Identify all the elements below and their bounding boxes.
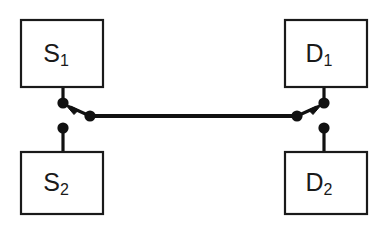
node-s1[interactable]: S1 [21, 20, 103, 87]
terminal-dot-d1 [318, 97, 329, 108]
node-s2-label-base: S [43, 168, 60, 196]
node-d1-label-base: D [306, 39, 324, 67]
node-s1-label-base: S [43, 39, 60, 67]
node-d1[interactable]: D1 [285, 20, 367, 87]
diagram-canvas: S1 D1 S2 D2 [0, 0, 391, 227]
switch-network-diagram: S1 D1 S2 D2 [0, 0, 391, 227]
node-d2[interactable]: D2 [285, 152, 367, 214]
terminal-dot-d2 [318, 122, 329, 133]
wire-group [63, 87, 324, 153]
node-s1-label-subscript: 1 [60, 52, 69, 69]
node-s2[interactable]: S2 [21, 152, 103, 214]
terminal-dot-bus-left [84, 110, 95, 121]
node-s2-label-subscript: 2 [60, 181, 69, 198]
terminal-dot-bus-right [291, 110, 302, 121]
node-d2-label-base: D [306, 168, 324, 196]
terminal-dot-s1 [57, 97, 68, 108]
node-d1-label-subscript: 1 [324, 52, 333, 69]
node-d2-label-subscript: 2 [324, 181, 333, 198]
terminal-dot-s2 [57, 122, 68, 133]
